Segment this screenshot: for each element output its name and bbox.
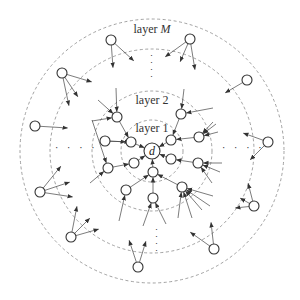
edge-arrow xyxy=(176,160,193,162)
edge-arrow xyxy=(45,193,73,197)
edge-arrow xyxy=(160,154,167,157)
edge-arrow xyxy=(143,203,151,226)
edge-arrow xyxy=(75,218,90,233)
node-o10 xyxy=(209,244,219,254)
node-b4 xyxy=(121,185,131,195)
edge-arrow xyxy=(67,74,92,81)
edge-arrow xyxy=(204,132,218,136)
edge-arrow xyxy=(211,222,213,244)
edge-arrow xyxy=(248,183,253,201)
edge-arrow xyxy=(158,175,178,185)
node-a3 xyxy=(129,158,139,168)
node-o8 xyxy=(249,201,259,211)
edge-arrow xyxy=(225,83,242,93)
edge-arrow xyxy=(201,168,212,183)
layered-network-diagram: layer M layer 2 layer 1 d ···· ···· · · … xyxy=(0,0,300,300)
destination-node-label: d xyxy=(149,144,155,159)
edge-arrow xyxy=(113,164,129,167)
node-o3 xyxy=(57,68,67,78)
edge-arrow xyxy=(76,229,99,235)
edge-arrow xyxy=(240,198,249,203)
ellipsis-right: · · · · xyxy=(222,142,265,153)
layer-m-label: layer M xyxy=(134,22,171,37)
layer-1-label: layer 1 xyxy=(136,121,169,136)
edge-arrow xyxy=(173,119,179,135)
edge-arrow xyxy=(119,121,128,137)
node-a2 xyxy=(166,135,176,145)
node-b1 xyxy=(112,112,122,122)
node-a5 xyxy=(148,167,158,177)
edge-arrow xyxy=(187,189,213,196)
edge-arrow xyxy=(72,206,77,232)
edge-arrow xyxy=(90,172,104,183)
node-b5 xyxy=(148,193,158,203)
ellipsis-left: · · · · xyxy=(55,142,98,153)
edge-arrow xyxy=(43,166,61,188)
edge-arrow xyxy=(119,195,125,221)
edge-arrow xyxy=(98,100,113,113)
node-b6 xyxy=(177,182,187,192)
node-a4 xyxy=(166,154,176,164)
edge-arrow xyxy=(191,44,195,70)
edge-arrow xyxy=(159,143,166,147)
edge-arrow xyxy=(187,190,210,206)
layer-2-label: layer 2 xyxy=(136,93,169,108)
edge-arrow xyxy=(139,241,145,262)
ellipsis-top: ···· xyxy=(150,52,154,80)
edge-arrow xyxy=(235,207,249,208)
node-s1 xyxy=(100,136,110,146)
edge-arrow xyxy=(138,156,145,161)
node-o7 xyxy=(35,187,45,197)
edge-arrow xyxy=(111,45,113,68)
edge-arrow xyxy=(40,126,68,128)
edge-arrow xyxy=(155,203,166,224)
node-o11 xyxy=(133,262,143,272)
edge-arrow xyxy=(186,108,213,113)
edge-arrow xyxy=(176,138,194,140)
node-a1 xyxy=(126,137,136,147)
node-o9 xyxy=(66,232,76,242)
edge-arrow xyxy=(180,44,188,62)
edge-arrow xyxy=(115,43,134,60)
node-o1 xyxy=(106,35,116,45)
node-o4 xyxy=(242,75,252,85)
node-b2 xyxy=(176,109,186,119)
edge-arrow xyxy=(136,144,145,148)
node-o5 xyxy=(30,121,40,131)
node-b7 xyxy=(193,158,203,168)
edge-arrow xyxy=(203,165,220,172)
node-o2 xyxy=(185,34,195,44)
node-b8 xyxy=(194,132,204,142)
edge-arrow xyxy=(165,42,186,57)
edge-arrow xyxy=(116,88,117,112)
edge-arrow xyxy=(186,191,202,210)
edge-arrow xyxy=(184,192,192,218)
ellipsis-bottom: ···· xyxy=(155,226,159,254)
node-b3 xyxy=(103,163,113,173)
